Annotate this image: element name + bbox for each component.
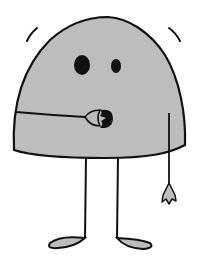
right-leg <box>117 157 118 238</box>
character-drawing <box>0 0 198 263</box>
left-foot <box>49 237 85 248</box>
motion-line-left <box>27 28 37 41</box>
right-eye <box>111 59 121 73</box>
right-foot <box>117 238 151 249</box>
motion-line-right <box>169 28 180 41</box>
body <box>14 17 185 158</box>
left-eye <box>74 55 90 75</box>
right-hand <box>162 183 176 204</box>
left-leg <box>85 157 86 238</box>
